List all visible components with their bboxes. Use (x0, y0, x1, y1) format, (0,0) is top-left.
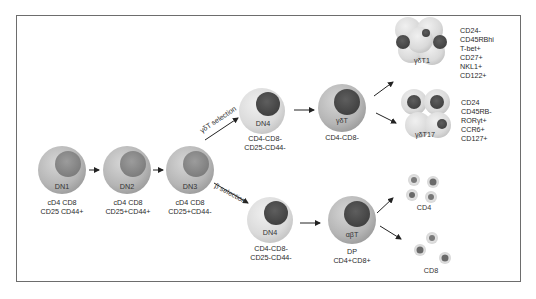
label-gdt1: γδT1 (414, 56, 430, 65)
marker-line: CD25-CD44- (244, 143, 286, 152)
markers-dn3: cD4 CD8 CD25+CD44- (168, 198, 211, 216)
cell-cluster-cd4 (406, 174, 439, 203)
marker-line: CD25+CD44+ (105, 207, 150, 216)
marker-line: CD27+ (460, 53, 494, 62)
marker-line: NKL1+ (460, 62, 494, 71)
label-dn4-ab: DN4 (263, 228, 277, 237)
marker-line: DP (333, 247, 370, 256)
markers-dn1: cD4 CD8 CD25 CD44+ (41, 198, 84, 216)
marker-line: CD4+CD8+ (333, 256, 370, 265)
marker-line: CCR6+ (461, 125, 492, 134)
arrow-gdt-gdt1 (374, 82, 393, 96)
marker-line: T-bet+ (460, 44, 494, 53)
arrow-abt-cd4 (377, 198, 393, 213)
marker-line: CD25+CD44- (168, 207, 211, 216)
markers-gdt1: CD24- CD45RBhi T-bet+ CD27+ NKL1+ CD122+ (460, 26, 494, 80)
marker-line: cD4 CD8 (105, 198, 150, 207)
label-abt: αβT (346, 230, 359, 239)
marker-line: CD24 (461, 98, 492, 107)
label-dn4-gd: DN4 (256, 119, 270, 128)
markers-gdt17: CD24 CD45RB- RORγt+ CCR6+ CD127+ (461, 98, 492, 143)
marker-line: CD122+ (460, 71, 494, 80)
marker-line: RORγt+ (461, 116, 492, 125)
marker-line: cD4 CD8 (41, 198, 84, 207)
label-cd4: CD4 (417, 203, 431, 212)
markers-dn4-gd: CD4-CD8- CD25-CD44- (244, 134, 286, 152)
label-dn2: DN2 (120, 182, 134, 191)
cell-cluster-cd8 (414, 232, 451, 264)
arrow-abt-cd8 (380, 226, 401, 239)
marker-line: CD4-CD8- (250, 244, 292, 253)
marker-line: CD25-CD44- (250, 253, 292, 262)
marker-line: CD45RBhi (460, 35, 494, 44)
label-gdt17: γδT17 (415, 130, 435, 139)
marker-line: cD4 CD8 (168, 198, 211, 207)
marker-line: CD25 CD44+ (41, 207, 84, 216)
markers-gdt: CD4-CD8- (325, 133, 359, 142)
marker-line: CD127+ (461, 134, 492, 143)
label-dn1: DN1 (55, 182, 69, 191)
markers-dn2: cD4 CD8 CD25+CD44+ (105, 198, 150, 216)
label-gdt: γδT (336, 116, 348, 125)
markers-dn4-ab: CD4-CD8- CD25-CD44- (250, 244, 292, 262)
markers-abt: DP CD4+CD8+ (333, 247, 370, 265)
label-cd8: CD8 (424, 266, 438, 275)
marker-line: CD4-CD8- (244, 134, 286, 143)
marker-line: CD4-CD8- (325, 133, 359, 142)
label-dn3: DN3 (183, 182, 197, 191)
arrow-gdt-gdt17 (376, 113, 396, 123)
marker-line: CD24- (460, 26, 494, 35)
marker-line: CD45RB- (461, 107, 492, 116)
